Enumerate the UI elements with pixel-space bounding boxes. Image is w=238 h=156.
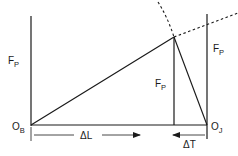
delta-t-label: ΔT	[183, 139, 196, 150]
bolt-line-extension-dashed	[158, 2, 174, 37]
joint-diagram: FP FP FP OB OJ ΔL ΔT	[0, 0, 238, 156]
delta-l-label: ΔL	[80, 130, 93, 141]
force-label-left: FP	[8, 55, 19, 69]
origin-bolt-label: OB	[12, 121, 25, 135]
joint-stiffness-line	[174, 37, 207, 125]
force-label-right: FP	[213, 43, 224, 57]
force-label-middle: FP	[155, 78, 166, 92]
bolt-stiffness-line	[31, 37, 174, 125]
joint-line-extension-dashed	[174, 13, 238, 37]
origin-joint-label: OJ	[211, 121, 223, 135]
